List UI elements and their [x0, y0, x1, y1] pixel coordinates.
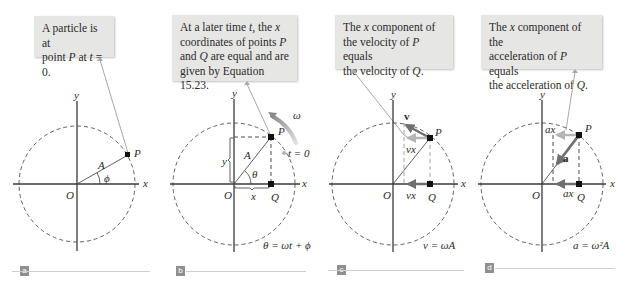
point-p-d: [576, 132, 582, 138]
panel-tag-d: d: [485, 263, 494, 273]
point-p-a: [125, 152, 130, 157]
amplitude-label-a: A: [97, 159, 105, 171]
phi-label: ϕ: [104, 172, 110, 184]
initial-position-marker: [282, 151, 286, 155]
y-coordinate-label: y: [221, 155, 227, 167]
leader-line-d: [566, 72, 575, 130]
origin-label-d: O: [532, 189, 540, 201]
panel-rule-c: [328, 270, 464, 271]
x-coordinate-label: x: [250, 190, 256, 202]
point-q-d: [576, 181, 582, 187]
panel-rule-b: [186, 271, 306, 272]
y-coordinate-brace: [228, 138, 233, 182]
velocity-vector-arrow: [406, 125, 430, 138]
panel-c: y x O P Q v⃗ vx vx v = ωA: [329, 69, 466, 252]
equation-c: v = ωA: [423, 239, 456, 251]
x-axis-label-b: x: [301, 177, 307, 189]
panel-b: y x O P Q A θ ω t = 0 y x θ = ωt + ϕ: [170, 81, 311, 252]
panel-tag-b: b: [176, 266, 185, 276]
point-p-label-b: P: [277, 125, 285, 137]
point-q-b: [268, 181, 274, 187]
leader-line-c: [354, 72, 404, 135]
y-axis-label-d: y: [539, 88, 545, 100]
panel-d: y x O P Q a⃗ ax ax a = ω²A: [478, 69, 615, 252]
omega-label: ω: [293, 109, 301, 121]
leader-line-a: [100, 60, 128, 153]
origin-label-c: O: [383, 189, 391, 201]
point-p-label-d: P: [584, 122, 592, 134]
point-p-label-c: P: [434, 126, 442, 138]
point-q-label-b: Q: [271, 191, 279, 203]
t0-label: t = 0: [288, 147, 310, 159]
y-axis-label-a: y: [73, 89, 79, 101]
phi-arc: [97, 173, 100, 185]
point-p-c: [427, 135, 433, 141]
theta-arc: [245, 171, 251, 184]
point-q-label-d: Q: [577, 191, 585, 203]
equation-b: θ = ωt + ϕ: [263, 239, 311, 251]
acceleration-vector-label: a⃗: [563, 152, 577, 164]
panel-rule-a: [12, 271, 150, 272]
leader-line-b: [247, 84, 270, 134]
diagram-canvas: y x O P A ϕ y x O P Q A θ ω t = 0 y x θ …: [0, 0, 628, 287]
ax-label-top: ax: [545, 123, 556, 135]
theta-label: θ: [252, 168, 258, 180]
x-axis-label-d: x: [609, 177, 615, 189]
point-q-label-c: Q: [428, 191, 436, 203]
ax-label-bottom: ax: [563, 187, 574, 199]
panel-a: y x O P A ϕ: [13, 57, 148, 251]
amplitude-label-b: A: [243, 149, 251, 161]
point-q-c: [427, 181, 433, 187]
y-axis-label-b: y: [231, 87, 237, 99]
origin-label-b: O: [224, 189, 232, 201]
origin-label-a: O: [66, 189, 74, 201]
equation-d: a = ω²A: [573, 239, 609, 251]
velocity-vector-label: v⃗: [404, 110, 418, 122]
x-axis-label-a: x: [142, 177, 148, 189]
point-p-b: [268, 134, 274, 140]
x-axis-label-c: x: [460, 177, 466, 189]
vx-label-bottom: vx: [406, 189, 416, 201]
vx-label-top: vx: [406, 143, 416, 155]
y-axis-label-c: y: [390, 88, 396, 100]
point-p-label-a: P: [133, 147, 141, 159]
panel-rule-d: [495, 268, 615, 269]
